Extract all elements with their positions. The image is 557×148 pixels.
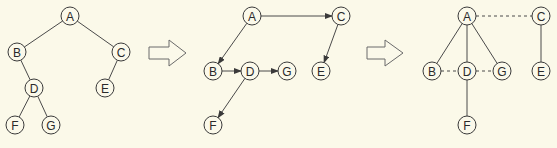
node-B: B [204,62,222,80]
edge-A-B [24,21,62,47]
node-E: E [96,79,114,97]
binary-tree-nodes: ABCDEFG [6,7,130,134]
node-label: G [497,65,506,79]
node-A: A [243,7,261,25]
node-label: F [209,119,216,133]
node-label: B [13,46,21,60]
edge-D-G [38,96,47,117]
node-E: E [532,62,550,80]
node-A: A [61,7,79,25]
node-label: F [11,119,18,133]
edge-A-B [437,24,462,64]
node-label: A [248,10,256,24]
node-F: F [204,116,222,134]
node-C: C [532,7,550,25]
node-label: A [463,10,471,24]
node-label: E [317,65,325,79]
edge-D-F [19,96,30,117]
right-arrow-icon [367,40,403,66]
node-label: E [101,82,109,96]
node-label: B [428,65,436,79]
node-label: D [246,65,255,79]
node-label: D [30,82,39,96]
diagram-canvas: ABCDEFGACBDGEFACBDGEF [0,0,557,148]
node-label: A [66,10,74,24]
nodes: ABCDEFGACBDGEFACBDGEF [6,7,550,134]
edge-C-E [324,24,338,62]
edge-D-F [218,78,245,117]
edge-A-G [472,24,497,64]
node-C: C [332,7,350,25]
node-D: D [241,62,259,80]
node-D: D [25,79,43,97]
node-label: C [537,10,546,24]
node-label: E [537,65,545,79]
node-F: F [458,116,476,134]
undirected-graph-edges [437,16,541,116]
node-label: C [117,46,126,60]
node-label: C [337,10,346,24]
edge-A-B [218,23,247,63]
node-label: D [463,65,472,79]
edge-B-D [21,60,30,80]
right-arrow-icon [149,40,186,66]
node-G: G [278,62,296,80]
binary-tree-edges [19,21,117,117]
node-E: E [312,62,330,80]
transition-arrows [149,40,403,66]
edge-C-E [109,60,118,80]
node-B: B [8,43,26,61]
node-D: D [458,62,476,80]
node-label: B [209,65,217,79]
node-G: G [42,116,60,134]
edge-A-C [77,21,113,47]
node-B: B [423,62,441,80]
node-label: F [463,119,470,133]
node-label: G [282,65,291,79]
node-C: C [112,43,130,61]
node-label: G [46,119,55,133]
node-G: G [493,62,511,80]
node-F: F [6,116,24,134]
node-A: A [458,7,476,25]
